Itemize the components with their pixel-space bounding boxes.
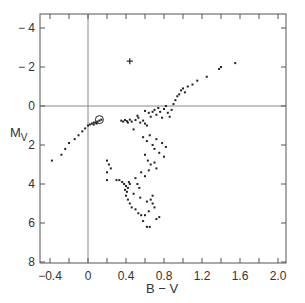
star-point: [135, 208, 137, 210]
y-tick-label: 2: [28, 138, 35, 152]
star-point: [60, 154, 62, 156]
hr-diagram: −0.400.40.81.21.62.0 − 4− 202468 B − V M…: [0, 0, 305, 303]
star-point: [155, 114, 157, 116]
star-point: [154, 148, 156, 150]
x-tick-label: 0.4: [118, 269, 135, 283]
star-point: [137, 212, 139, 214]
reference-lines: [40, 14, 286, 263]
star-point: [120, 120, 122, 122]
star-point: [178, 93, 180, 95]
star-point: [169, 116, 171, 118]
star-point: [118, 179, 120, 181]
star-point: [124, 119, 126, 121]
star-point: [148, 112, 150, 114]
star-point: [155, 167, 157, 169]
star-point: [152, 111, 154, 113]
star-point: [126, 191, 128, 193]
x-tick-label: 0: [85, 269, 92, 283]
star-point: [116, 179, 118, 181]
star-point: [93, 122, 95, 124]
star-point: [142, 220, 144, 222]
star-point: [146, 125, 148, 127]
star-point: [100, 119, 102, 121]
star-point: [182, 87, 184, 89]
annotations: [95, 58, 132, 123]
star-point: [161, 142, 163, 144]
star-point: [180, 89, 182, 91]
star-point: [136, 115, 138, 117]
star-point: [152, 144, 154, 146]
star-point: [154, 109, 156, 111]
y-tick-label: − 2: [18, 60, 35, 74]
star-point: [98, 120, 100, 122]
star-point: [148, 169, 150, 171]
star-point: [158, 152, 160, 154]
star-point: [206, 76, 208, 78]
star-point: [139, 197, 141, 199]
star-point: [140, 214, 142, 216]
star-point: [148, 210, 150, 212]
star-point: [144, 123, 146, 125]
star-point: [149, 134, 151, 136]
star-point: [140, 171, 142, 173]
star-point: [110, 167, 112, 169]
star-point: [129, 203, 131, 205]
plot-frame: [40, 14, 286, 263]
star-point: [146, 201, 148, 203]
star-point: [91, 123, 93, 125]
star-point: [124, 189, 126, 191]
star-point: [133, 128, 135, 130]
star-point: [218, 68, 220, 70]
star-point: [127, 187, 129, 189]
star-point: [155, 218, 157, 220]
star-point: [123, 183, 125, 185]
star-point: [196, 80, 198, 82]
star-point: [51, 160, 53, 162]
star-point: [144, 110, 146, 112]
star-point: [64, 148, 66, 150]
star-point: [93, 124, 95, 126]
star-point: [157, 107, 159, 109]
star-point: [150, 199, 152, 201]
star-point: [159, 111, 161, 113]
star-point: [81, 130, 83, 132]
star-point: [78, 134, 80, 136]
star-point: [154, 206, 156, 208]
star-point: [68, 142, 70, 144]
star-point: [146, 140, 148, 142]
y-tick-label: 0: [28, 99, 35, 113]
star-point: [133, 193, 135, 195]
star-point: [89, 124, 91, 126]
star-point: [131, 206, 133, 208]
star-point: [144, 154, 146, 156]
star-point: [171, 109, 173, 111]
star-point: [142, 120, 144, 122]
star-point: [127, 122, 129, 124]
x-tick-label: 1.2: [194, 269, 211, 283]
star-point: [176, 95, 178, 97]
star-point: [138, 187, 140, 189]
star-point: [150, 116, 152, 118]
star-point: [127, 199, 129, 201]
star-point: [122, 121, 124, 123]
star-point: [163, 156, 165, 158]
x-tick-label: 1.6: [232, 269, 249, 283]
star-point: [131, 121, 133, 123]
star-point: [128, 181, 130, 183]
star-point: [150, 164, 152, 166]
star-point: [87, 125, 89, 127]
star-point: [152, 195, 154, 197]
star-point: [234, 62, 236, 64]
x-axis-label: B − V: [146, 281, 178, 296]
x-axis-ticks: −0.400.40.81.21.62.0: [38, 14, 287, 283]
star-point: [184, 91, 186, 93]
star-point: [129, 183, 131, 185]
y-tick-label: − 4: [18, 21, 35, 35]
star-point: [144, 214, 146, 216]
y-tick-label: 8: [28, 255, 35, 269]
star-point: [154, 162, 156, 164]
x-tick-label: −0.4: [38, 269, 62, 283]
star-point: [108, 164, 110, 166]
star-point: [187, 86, 189, 88]
star-point: [136, 183, 138, 185]
